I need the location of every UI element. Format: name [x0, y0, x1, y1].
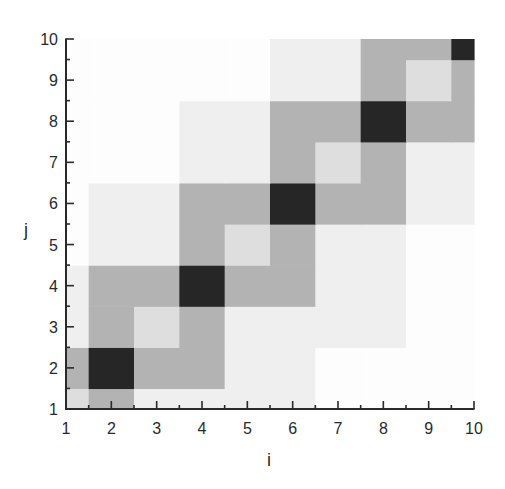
heatmap-cell	[270, 265, 316, 307]
heatmap-cell	[270, 183, 316, 225]
heatmap-cell	[361, 183, 407, 225]
heatmap-cell	[451, 224, 474, 266]
y-tick-label: 1	[49, 401, 58, 418]
heatmap-cell	[179, 306, 225, 348]
heatmap-cell	[406, 224, 452, 266]
heatmap-cell	[451, 306, 474, 348]
heatmap-cell	[451, 142, 474, 184]
heatmap-cell	[89, 306, 135, 348]
heatmap-cell	[270, 39, 316, 60]
heatmap-cell	[134, 183, 180, 225]
heatmap-cell	[66, 39, 89, 60]
heatmap-cell	[134, 347, 180, 389]
heatmap-cell	[270, 224, 316, 266]
y-tick-label: 10	[40, 31, 58, 48]
heatmap-cell	[225, 39, 271, 60]
heatmap-cell	[406, 39, 452, 60]
heatmap-cell	[225, 265, 271, 307]
heatmap-cell	[179, 142, 225, 184]
x-tick-label: 9	[424, 420, 433, 437]
heatmap-cell	[361, 306, 407, 348]
heatmap-cell	[225, 347, 271, 389]
heatmap-cell	[179, 347, 225, 389]
heatmap-cell	[315, 347, 361, 389]
heatmap-cell	[406, 60, 452, 102]
y-tick-label: 6	[49, 195, 58, 212]
heatmap-cell	[451, 60, 474, 102]
heatmap-cell	[89, 265, 135, 307]
heatmap-cell	[361, 224, 407, 266]
heatmap-cell	[361, 265, 407, 307]
heatmap-cell	[315, 224, 361, 266]
heatmap-cell	[406, 306, 452, 348]
heatmap-cell	[406, 347, 452, 389]
heatmap-cell	[451, 183, 474, 225]
heatmap-cell	[89, 101, 135, 143]
heatmap-cell	[270, 142, 316, 184]
heatmap-cell	[225, 101, 271, 143]
heatmap-chart: 12345678910 12345678910 i j	[0, 0, 505, 489]
heatmap-cell	[451, 265, 474, 307]
y-tick-label: 5	[49, 237, 58, 254]
heatmap-cell	[134, 60, 180, 102]
heatmap-cell	[361, 347, 407, 389]
heatmap-cells	[66, 39, 475, 410]
y-tick-label: 7	[49, 154, 58, 171]
heatmap-cell	[451, 101, 474, 143]
heatmap-cell	[406, 265, 452, 307]
heatmap-cell	[179, 265, 225, 307]
heatmap-cell	[225, 183, 271, 225]
heatmap-cell	[179, 60, 225, 102]
x-tick-label: 7	[334, 420, 343, 437]
x-tick-label: 6	[288, 420, 297, 437]
heatmap-cell	[89, 183, 135, 225]
heatmap-cell	[89, 347, 135, 389]
x-tick-label: 5	[243, 420, 252, 437]
heatmap-cell	[315, 142, 361, 184]
x-tick-label: 4	[198, 420, 207, 437]
heatmap-cell	[270, 306, 316, 348]
heatmap-cell	[270, 60, 316, 102]
heatmap-cell	[134, 306, 180, 348]
heatmap-cell	[179, 101, 225, 143]
heatmap-cell	[406, 183, 452, 225]
heatmap-cell	[225, 306, 271, 348]
heatmap-cell	[179, 183, 225, 225]
heatmap-cell	[270, 347, 316, 389]
heatmap-cell	[89, 142, 135, 184]
y-tick-label: 9	[49, 72, 58, 89]
heatmap-cell	[361, 39, 407, 60]
heatmap-cell	[89, 224, 135, 266]
heatmap-cell	[179, 39, 225, 60]
heatmap-cell	[225, 224, 271, 266]
heatmap-cell	[315, 183, 361, 225]
y-axis-label: j	[23, 220, 28, 240]
heatmap-cell	[66, 388, 89, 409]
heatmap-cell	[451, 39, 474, 60]
heatmap-cell	[134, 39, 180, 60]
x-axis-label: i	[267, 450, 271, 470]
y-tick-label: 8	[49, 113, 58, 130]
heatmap-cell	[134, 224, 180, 266]
heatmap-cell	[225, 142, 271, 184]
heatmap-cell	[361, 142, 407, 184]
heatmap-cell	[270, 101, 316, 143]
heatmap-cell	[134, 101, 180, 143]
heatmap-cell	[315, 101, 361, 143]
heatmap-cell	[179, 224, 225, 266]
heatmap-cell	[451, 388, 474, 409]
x-tick-label: 1	[62, 420, 71, 437]
heatmap-cell	[451, 347, 474, 389]
y-tick-label: 3	[49, 319, 58, 336]
heatmap-cell	[315, 265, 361, 307]
heatmap-cell	[315, 306, 361, 348]
heatmap-cell	[89, 60, 135, 102]
x-tick-label: 8	[379, 420, 388, 437]
heatmap-cell	[406, 142, 452, 184]
heatmap-cell	[406, 101, 452, 143]
x-tick-label: 3	[152, 420, 161, 437]
heatmap-cell	[361, 101, 407, 143]
y-tick-label: 2	[49, 360, 58, 377]
y-tick-label: 4	[49, 278, 58, 295]
heatmap-cell	[134, 265, 180, 307]
